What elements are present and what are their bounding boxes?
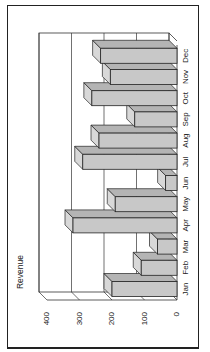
value-axis-title: Revenue	[15, 255, 25, 289]
category-label: Jul	[181, 156, 190, 166]
bar-feb	[133, 252, 177, 275]
value-tick-label: 400	[42, 311, 51, 325]
category-label: Jun	[181, 177, 190, 190]
value-tick-label: 200	[107, 311, 116, 325]
bar-may	[107, 189, 177, 212]
bar-mar	[150, 231, 178, 254]
category-label: May	[181, 197, 190, 212]
wall-edge	[169, 33, 177, 41]
category-label: Nov	[181, 70, 190, 84]
bar-oct	[84, 83, 177, 106]
bar-nov	[102, 62, 177, 85]
bar-dec	[93, 40, 177, 63]
category-label: Aug	[181, 133, 190, 147]
category-label: Dec	[181, 49, 190, 63]
value-axis: 0100200300400	[42, 311, 181, 325]
category-label: Jan	[181, 283, 190, 296]
bar-sep	[127, 104, 177, 127]
revenue-bar-chart: 0100200300400 JanFebMarAprMayJunJulAugSe…	[0, 0, 210, 352]
value-tick-label: 300	[75, 311, 84, 325]
floor-line	[39, 292, 47, 300]
category-label: Feb	[181, 260, 190, 274]
category-label: Mar	[181, 239, 190, 253]
bar-apr	[65, 210, 177, 233]
category-label: Sep	[181, 112, 190, 127]
value-tick-label: 0	[172, 311, 181, 316]
category-label: Oct	[181, 91, 190, 104]
value-tick-label: 100	[140, 311, 149, 325]
bar-jul	[75, 146, 177, 169]
category-axis: JanFebMarAprMayJunJulAugSepOctNovDec	[181, 49, 190, 296]
category-label: Apr	[181, 219, 190, 232]
floor-line	[72, 292, 80, 300]
bar-jan	[104, 274, 177, 297]
bar-aug	[91, 125, 177, 148]
